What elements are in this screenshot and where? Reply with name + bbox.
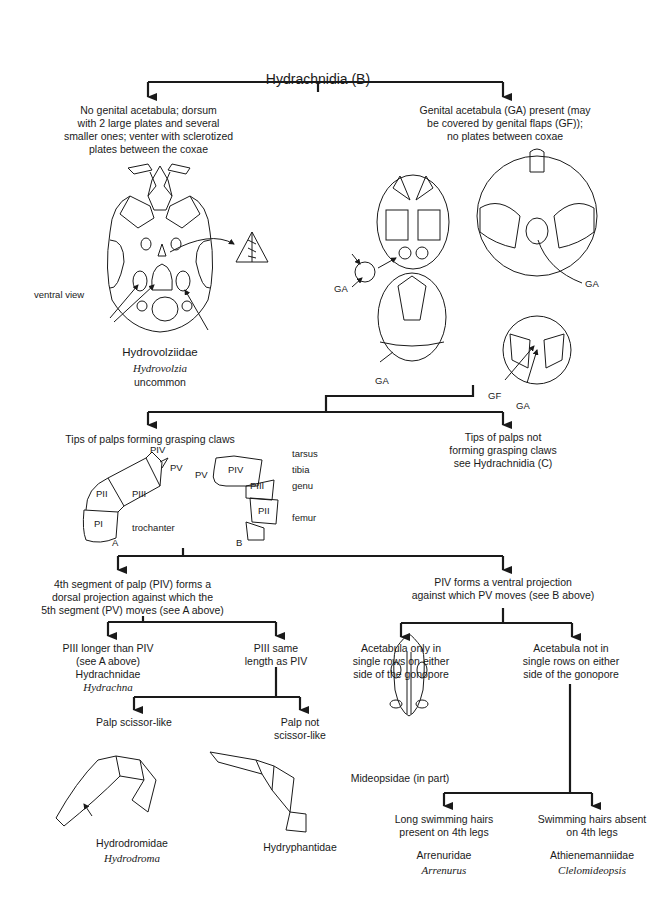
couplet-7a-text: Long swimming hairs present on 4th legs (379, 813, 509, 839)
palp-b-piii-label: PIII (250, 480, 264, 491)
palp-a-piv-label: PIV (150, 444, 165, 455)
couplet-2b-text: Tips of palps not forming grasping claws… (430, 431, 576, 470)
couplet-1a-text: No genital acetabula; dorsum with 2 larg… (46, 104, 251, 156)
genu-label: genu (292, 480, 313, 491)
couplet-6b-text: Acetabula not in single rows on either s… (516, 642, 626, 681)
family-arrenuridae: Arrenuridae (379, 849, 509, 862)
tarsus-label: tarsus (292, 448, 318, 459)
note-uncommon: uncommon (100, 376, 220, 389)
genital-acetabula-illustrations (352, 149, 597, 384)
couplet-6a-text: Acetabula only in single rows on either … (346, 642, 456, 681)
palp-a-pi-label: PI (94, 518, 103, 529)
palp-a-letter: A (112, 537, 118, 548)
family-hydrodromidae: Hydrodromidae (82, 837, 182, 850)
genus-hydrodroma: Hydrodroma (82, 852, 182, 865)
palp-b-letter: B (236, 537, 242, 548)
tibia-label: tibia (292, 464, 309, 475)
palp-b-pv-label: PV (195, 469, 208, 480)
family-hydryphantidae: Hydryphantidae (250, 841, 350, 854)
couplet-3a-text: 4th segment of palp (PIV) forms a dorsal… (30, 578, 235, 617)
gf-label: GF (488, 390, 501, 401)
couplet-4b-text: PIII same length as PIV (230, 642, 322, 668)
family-athienemanniidae: Athienemanniidae (527, 849, 657, 862)
family-mideopsidae: Mideopsidae (in part) (340, 772, 460, 785)
ga-label-3: GA (375, 375, 389, 386)
family-hydrovolziidae: Hydrovolziidae (100, 346, 220, 359)
key-title: Hydrachnidia (B) (0, 71, 636, 87)
couplet-5a-text: Palp scissor-like (84, 716, 184, 729)
genus-hydrachna: Hydrachna (48, 681, 168, 694)
couplet-4a-text: PIII longer than PIV (see A above) Hydra… (48, 642, 168, 681)
ventral-view-label: ventral view (34, 289, 84, 300)
palp-b-piv-label: PIV (228, 464, 243, 475)
palp-family-illustrations (56, 752, 306, 832)
couplet-3b-text: PIV forms a ventral projection against w… (400, 576, 606, 602)
ga-label-4: GA (516, 400, 530, 411)
hydrovolzia-ventral-illustration (107, 164, 268, 332)
genus-arrenurus: Arrenurus (379, 864, 509, 877)
palp-a-piii-label: PIII (132, 488, 146, 499)
ga-label-2: GA (585, 278, 599, 289)
palp-a-pv-label: PV (170, 462, 183, 473)
palp-a-pii-label: PII (96, 488, 108, 499)
genus-hydrovolzia: Hydrovolzia (100, 362, 220, 375)
trochanter-label: trochanter (132, 522, 175, 533)
couplet-7b-text: Swimming hairs absent on 4th legs (527, 813, 657, 839)
couplet-5b-text: Palp not scissor-like (262, 716, 338, 742)
femur-label: femur (292, 512, 316, 523)
genus-clelomideopsis: Clelomideopsis (527, 864, 657, 877)
couplet-1b-text: Genital acetabula (GA) present (may be c… (400, 104, 610, 143)
ga-label-1: GA (334, 283, 348, 294)
palp-b-pii-label: PII (258, 505, 270, 516)
